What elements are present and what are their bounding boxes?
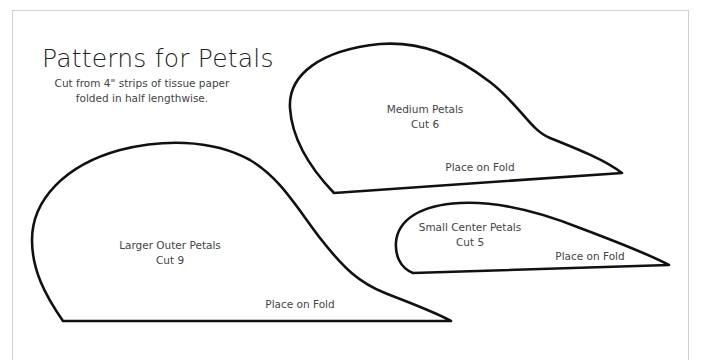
fold-instruction: Place on Fold [425, 160, 535, 175]
pattern-name: Larger Outer Petals [105, 238, 235, 253]
page-subtitle: Cut from 4" strips of tissue paper folde… [42, 76, 242, 106]
pattern-cut-count: Cut 6 [375, 117, 475, 132]
pattern-cut-count: Cut 9 [105, 253, 235, 268]
page-title: Patterns for Petals [42, 45, 274, 73]
subtitle-line: Cut from 4" strips of tissue paper [42, 76, 242, 91]
medium-petal-label: Medium Petals Cut 6 [375, 102, 475, 132]
pattern-name: Small Center Petals [410, 220, 530, 235]
large-petal-outline [32, 143, 451, 321]
subtitle-line: folded in half lengthwise. [42, 91, 242, 106]
large-fold-label: Place on Fold [245, 297, 355, 312]
small-fold-label: Place on Fold [535, 249, 645, 264]
fold-instruction: Place on Fold [535, 249, 645, 264]
pattern-cut-count: Cut 5 [410, 235, 530, 250]
medium-fold-label: Place on Fold [425, 160, 535, 175]
pattern-name: Medium Petals [375, 102, 475, 117]
large-petal-label: Larger Outer Petals Cut 9 [105, 238, 235, 268]
fold-instruction: Place on Fold [245, 297, 355, 312]
small-petal-label: Small Center Petals Cut 5 [410, 220, 530, 250]
